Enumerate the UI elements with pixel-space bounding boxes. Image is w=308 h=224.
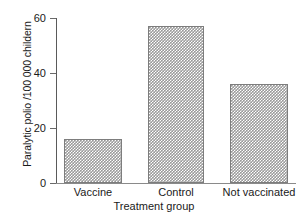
bar-chart: Paralytic polio /100 000 childern 60 40 … — [0, 0, 308, 224]
x-category-label-control: Control — [132, 186, 220, 198]
y-tick-label-60: 60 — [6, 13, 46, 24]
x-axis-title: Treatment group — [0, 200, 308, 212]
bar-control — [148, 26, 204, 183]
bar-not-vaccinated — [230, 84, 288, 183]
y-tick-label-20: 20 — [6, 123, 46, 134]
y-tick-label-40: 40 — [6, 68, 46, 79]
x-axis-line — [56, 183, 296, 184]
y-axis-title: Paralytic polio /100 000 childern — [21, 4, 33, 184]
y-tick-label-0: 0 — [6, 178, 46, 189]
bar-vaccine — [64, 139, 122, 183]
plot-area — [56, 18, 296, 183]
x-category-label-vaccine: Vaccine — [49, 186, 137, 198]
x-category-label-not-vaccinated: Not vaccinated — [210, 186, 308, 198]
